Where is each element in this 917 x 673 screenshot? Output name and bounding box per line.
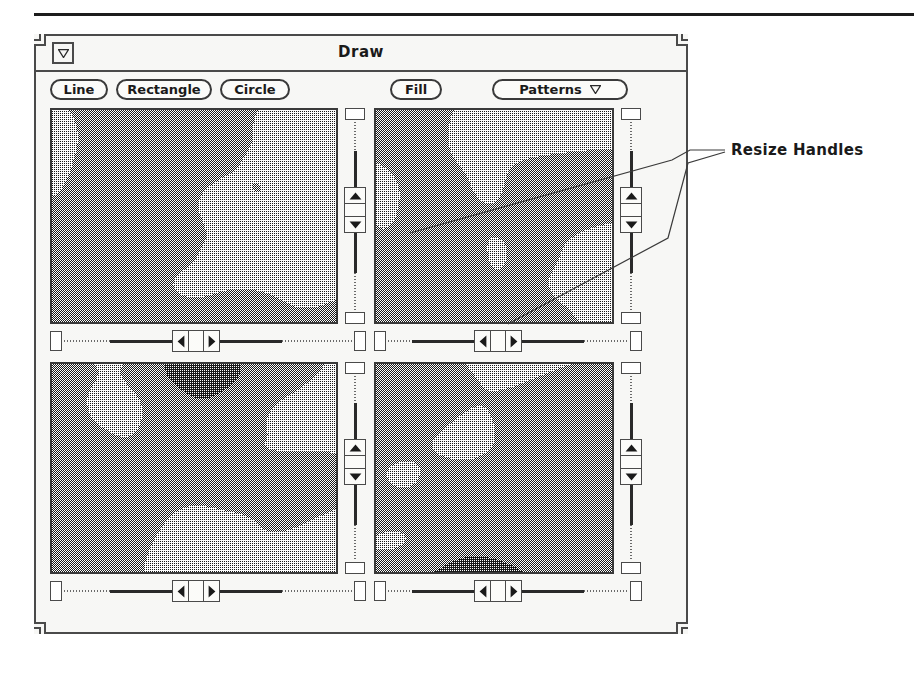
image-pane-top-left-canvas[interactable] (52, 110, 336, 322)
triangle-right-icon[interactable] (505, 331, 521, 351)
triangle-down-icon[interactable] (621, 468, 641, 484)
vscroll-track-upper[interactable] (630, 122, 632, 153)
vscroll-bar-upper[interactable] (630, 403, 633, 439)
line-button[interactable]: Line (50, 79, 108, 100)
hscroll-bar-right[interactable] (522, 340, 584, 343)
hscroll-cap-left[interactable] (374, 581, 386, 601)
vscroll-thumb[interactable] (344, 439, 366, 485)
vscroll-bar-upper[interactable] (354, 403, 357, 439)
triangle-down-icon[interactable] (621, 216, 641, 232)
hscrollbar-bottom-left[interactable] (50, 580, 366, 602)
vscroll-bar-lower[interactable] (630, 485, 633, 525)
hscroll-bar-left[interactable] (110, 340, 172, 343)
vscroll-track-lower[interactable] (630, 525, 632, 560)
hscroll-cap-right[interactable] (354, 581, 366, 601)
hscroll-cap-left[interactable] (50, 581, 62, 601)
vscroll-cap-top[interactable] (345, 362, 365, 374)
vscroll-track-upper[interactable] (630, 376, 632, 405)
hscroll-thumb-grip[interactable] (491, 331, 505, 351)
vscroll-thumb[interactable] (620, 187, 642, 233)
hscroll-thumb-grip[interactable] (491, 581, 505, 601)
circle-button[interactable]: Circle (220, 79, 290, 100)
hscroll-track-right[interactable] (584, 590, 628, 592)
vscroll-cap-top[interactable] (345, 108, 365, 120)
triangle-right-icon[interactable] (203, 331, 219, 351)
triangle-down-icon[interactable] (345, 216, 365, 232)
hscroll-bar-left[interactable] (412, 340, 474, 343)
vscroll-cap-top[interactable] (621, 108, 641, 120)
triangle-left-icon[interactable] (173, 581, 189, 601)
vscrollbar-bottom-right[interactable] (620, 362, 642, 574)
rectangle-button[interactable]: Rectangle (116, 79, 212, 100)
image-pane-bottom-left-canvas[interactable] (52, 364, 336, 572)
image-pane-top-right-canvas[interactable] (376, 110, 612, 322)
vscroll-bar-lower[interactable] (630, 233, 633, 273)
triangle-left-icon[interactable] (475, 331, 491, 351)
vscrollbar-top-right[interactable] (620, 108, 642, 324)
vscroll-track-lower[interactable] (354, 273, 356, 310)
vscroll-thumb-grip[interactable] (345, 456, 365, 468)
hscroll-thumb-grip[interactable] (189, 331, 203, 351)
hscroll-bar-right[interactable] (522, 590, 584, 593)
hscroll-track-right[interactable] (282, 340, 352, 342)
vscroll-cap-bottom[interactable] (345, 562, 365, 574)
hscrollbar-top-right[interactable] (374, 330, 642, 352)
vscroll-cap-bottom[interactable] (621, 562, 641, 574)
hscroll-track-left[interactable] (388, 590, 412, 592)
title-bar[interactable]: Draw (36, 36, 686, 72)
vscroll-thumb[interactable] (620, 439, 642, 485)
triangle-up-icon[interactable] (345, 188, 365, 204)
vscroll-cap-bottom[interactable] (345, 312, 365, 324)
vscroll-track-upper[interactable] (354, 122, 356, 153)
hscroll-cap-left[interactable] (374, 331, 386, 351)
hscroll-track-left[interactable] (64, 590, 110, 592)
hscroll-bar-left[interactable] (412, 590, 474, 593)
hscroll-bar-right[interactable] (220, 590, 282, 593)
hscroll-cap-right[interactable] (630, 581, 642, 601)
hscroll-thumb[interactable] (172, 580, 220, 602)
triangle-left-icon[interactable] (173, 331, 189, 351)
hscroll-track-left[interactable] (388, 340, 412, 342)
vscroll-bar-lower[interactable] (354, 485, 357, 525)
vscroll-track-lower[interactable] (630, 273, 632, 310)
triangle-right-icon[interactable] (203, 581, 219, 601)
hscrollbar-top-left[interactable] (50, 330, 366, 352)
patterns-dropdown[interactable]: Patterns (492, 79, 628, 100)
fill-button[interactable]: Fill (390, 79, 442, 100)
hscroll-thumb[interactable] (474, 580, 522, 602)
vscroll-thumb-grip[interactable] (621, 456, 641, 468)
vscrollbar-top-left[interactable] (344, 108, 366, 324)
triangle-right-icon[interactable] (505, 581, 521, 601)
triangle-up-icon[interactable] (345, 440, 365, 456)
triangle-up-icon[interactable] (621, 188, 641, 204)
hscroll-thumb-grip[interactable] (189, 581, 203, 601)
vscrollbar-bottom-left[interactable] (344, 362, 366, 574)
triangle-down-icon[interactable] (345, 468, 365, 484)
hscrollbar-bottom-right[interactable] (374, 580, 642, 602)
vscroll-thumb-grip[interactable] (621, 204, 641, 216)
hscroll-bar-right[interactable] (220, 340, 282, 343)
vscroll-bar-lower[interactable] (354, 233, 357, 273)
hscroll-cap-right[interactable] (354, 331, 366, 351)
hscroll-cap-left[interactable] (50, 331, 62, 351)
triangle-left-icon[interactable] (475, 581, 491, 601)
hscroll-track-right[interactable] (282, 590, 352, 592)
vscroll-track-upper[interactable] (354, 376, 356, 405)
vscroll-bar-upper[interactable] (354, 151, 357, 187)
image-pane-bottom-left[interactable] (50, 362, 338, 574)
bottom-right-resize-handle[interactable] (668, 614, 688, 634)
hscroll-cap-right[interactable] (630, 331, 642, 351)
triangle-up-icon[interactable] (621, 440, 641, 456)
hscroll-track-left[interactable] (64, 340, 110, 342)
vscroll-bar-upper[interactable] (630, 151, 633, 187)
image-pane-top-right[interactable] (374, 108, 614, 324)
vscroll-cap-top[interactable] (621, 362, 641, 374)
image-pane-top-left[interactable] (50, 108, 338, 324)
vscroll-cap-bottom[interactable] (621, 312, 641, 324)
vscroll-thumb-grip[interactable] (345, 204, 365, 216)
image-pane-bottom-right-canvas[interactable] (376, 364, 612, 572)
hscroll-thumb[interactable] (172, 330, 220, 352)
hscroll-thumb[interactable] (474, 330, 522, 352)
vscroll-thumb[interactable] (344, 187, 366, 233)
image-pane-bottom-right[interactable] (374, 362, 614, 574)
